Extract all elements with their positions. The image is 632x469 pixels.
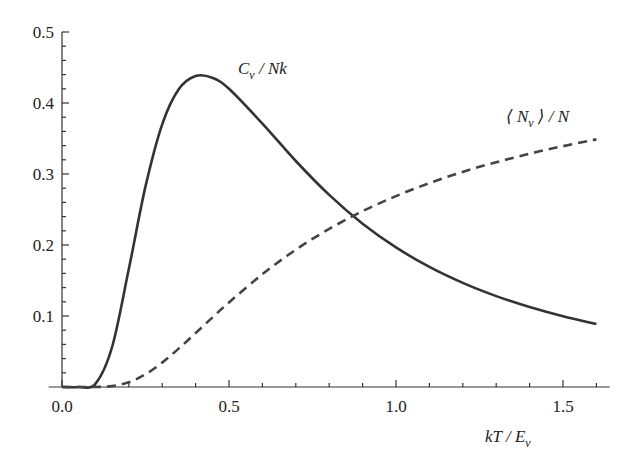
y-tick-label: 0.5 bbox=[33, 23, 54, 42]
occupancy-curve bbox=[62, 139, 596, 387]
x-tick-label: 1.5 bbox=[552, 397, 573, 416]
x-axis-label: kT / Ev bbox=[485, 427, 531, 450]
y-tick-label: 0.4 bbox=[33, 94, 55, 113]
axes bbox=[49, 32, 610, 387]
occupancy-label: ⟨ Nv ⟩ / N bbox=[506, 107, 571, 130]
y-tick-label: 0.3 bbox=[33, 165, 54, 184]
tick-labels: 0.00.51.01.50.10.20.30.40.5 bbox=[33, 23, 574, 416]
x-tick-label: 0.0 bbox=[51, 397, 72, 416]
x-tick-label: 1.0 bbox=[385, 397, 406, 416]
x-tick-label: 0.5 bbox=[218, 397, 239, 416]
cv-label: Cv / Nk bbox=[238, 59, 287, 82]
y-tick-label: 0.1 bbox=[33, 307, 54, 326]
y-tick-label: 0.2 bbox=[33, 236, 54, 255]
chart: 0.00.51.01.50.10.20.30.40.5 Cv / Nk ⟨ Nv… bbox=[0, 0, 632, 469]
